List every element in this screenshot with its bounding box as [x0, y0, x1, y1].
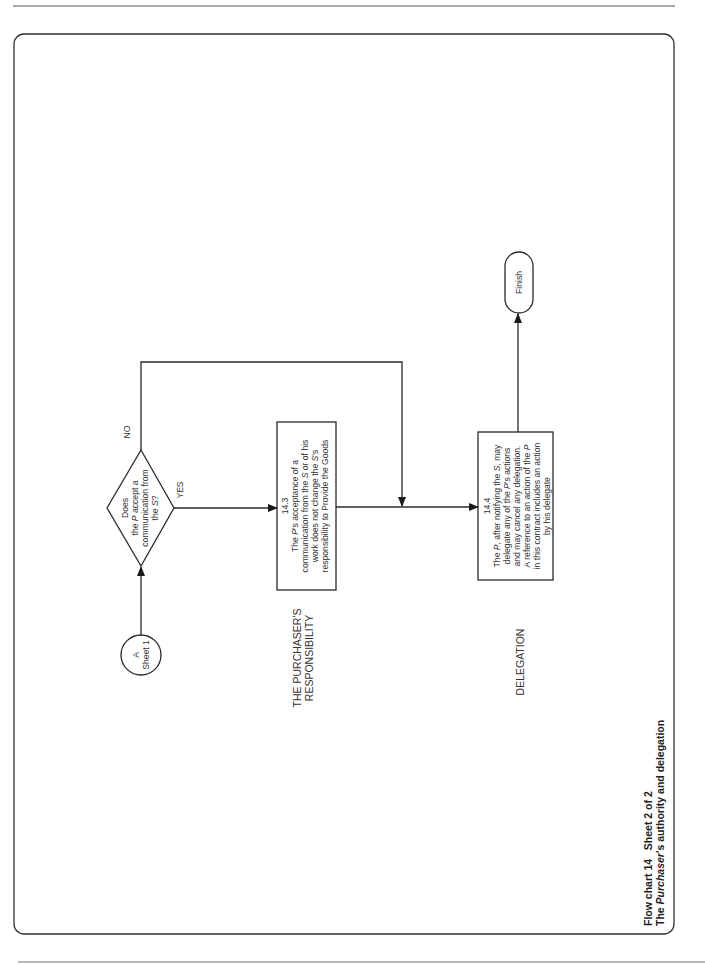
section-label-delegation: DELEGATION [514, 629, 526, 696]
connector-label-a: A [131, 652, 141, 658]
connector-label-sheet: Sheet 1 [141, 640, 151, 670]
yes-label: YES [175, 481, 185, 498]
decision-diamond: Does the P accept a communication from t… [107, 450, 174, 566]
box-clause-14-3: 14.3 The P's acceptance of a communicati… [277, 422, 336, 590]
section-label-responsibility-1: THE PURCHASER'S [291, 609, 303, 708]
figure-caption-line-2: The Purchaser's authority and delegation [654, 720, 666, 926]
figure-caption-line-1: Flow chart 14 Sheet 2 of 2 [642, 791, 654, 926]
decision-line-4: the S? [150, 495, 160, 520]
clause-14-3-line-1: The P's acceptance of a [290, 460, 300, 552]
clause-14-3-line-3: work does not change the S's [310, 450, 320, 564]
page-frame [14, 34, 674, 934]
clause-14-4-line-2: delegate any of the P's actions [502, 448, 512, 565]
clause-14-4-line-3: and may cancel any delegation. [512, 446, 522, 567]
clause-14-3-line-2: communication from the S or of his [300, 440, 310, 573]
box-clause-14-4: 14.4 The P, after notifying the S, may d… [478, 432, 553, 580]
clause-14-4-line-6: by his delegate [542, 477, 552, 535]
clause-14-4-line-5: in this contract includes an action [532, 442, 542, 569]
section-label-responsibility-2: RESPONSIBILITY [303, 615, 315, 701]
clause-14-3-line-4: responsibility to Provide the Goods [320, 440, 330, 573]
clause-14-4-line-1: The P, after notifying the S, may [492, 444, 502, 567]
no-label: NO [122, 425, 132, 438]
decision-line-3: communication from [140, 469, 150, 546]
finish-terminal: Finish [505, 252, 533, 313]
decision-line-2: the P accept a [130, 480, 140, 535]
finish-label: Finish [514, 271, 524, 294]
clause-14-4-number: 14.4 [482, 497, 492, 514]
off-page-connector: A Sheet 1 [121, 635, 161, 675]
flowchart-canvas: A Sheet 1 Does the P accept a communicat… [0, 0, 705, 965]
clause-14-3-number: 14.3 [280, 497, 290, 514]
decision-line-1: Does [120, 498, 130, 518]
clause-14-4-line-4: A reference to an action of the P [522, 444, 532, 567]
